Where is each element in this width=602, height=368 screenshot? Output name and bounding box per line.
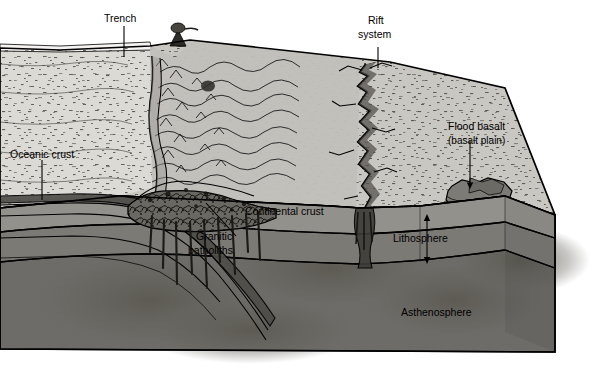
label-flood-basalt-line2: (basalt plain) [448,135,505,146]
label-lithosphere: Lithosphere [393,232,448,244]
block-diagram-svg: Trench Rift system Oceanic crust Flood b… [0,0,602,368]
diagram-canvas: Trench Rift system Oceanic crust Flood b… [0,0,602,368]
right-face-shade [505,196,555,352]
label-oceanic-crust: Oceanic crust [10,148,74,160]
label-rift-line1: Rift [368,14,384,26]
caldera-spot [201,81,215,92]
label-continental-crust: Continental crust [245,205,324,217]
label-asthenosphere: Asthenosphere [401,306,472,318]
mountain-range [150,40,360,210]
label-flood-basalt-line1: Flood basalt [448,120,505,132]
label-granitic-line1: Granitic [196,230,232,242]
eruption-plume [171,23,185,33]
label-trench: Trench [104,12,136,24]
label-granitic-line2: batholiths [188,244,233,256]
ash-trail [185,28,198,30]
label-rift-line2: system [358,28,392,40]
